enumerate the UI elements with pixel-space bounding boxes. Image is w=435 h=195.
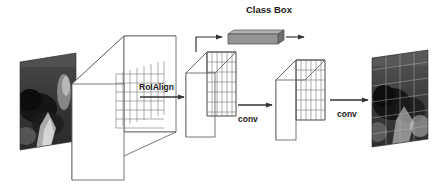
label-roialign: RoIAlign: [139, 83, 174, 92]
arrow-to-class-box-head: [196, 37, 222, 52]
output-image: [369, 50, 430, 147]
label-conv-1: conv: [238, 115, 258, 124]
class-box-head: [228, 30, 284, 44]
label-conv-2: conv: [337, 110, 357, 119]
diagram-canvas: [0, 0, 435, 195]
label-class-box: Class Box: [246, 5, 292, 15]
architecture-diagram: Class Box RoIAlign conv conv: [0, 0, 435, 195]
mask-feature-volume: [276, 60, 325, 140]
roi-feature-volume: [186, 52, 236, 137]
input-image: [16, 53, 76, 150]
